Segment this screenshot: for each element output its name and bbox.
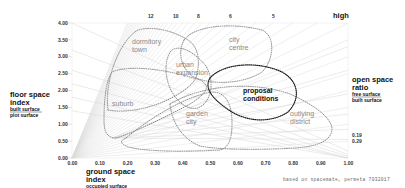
y-tick-label: 1.00 — [58, 121, 68, 127]
label-dormitory: dormitory — [132, 38, 162, 46]
top-layer-labels: 1210865 — [148, 13, 275, 19]
x-tick-label: 0.40 — [178, 160, 188, 166]
x-tick-label: 0.30 — [150, 160, 160, 166]
fsi-denominator: plot surface — [10, 112, 39, 118]
y-tick-label: 2.00 — [58, 87, 68, 93]
layer-label: 12 — [148, 13, 154, 19]
osr-tick-label: 0.29 — [352, 138, 362, 144]
y-axis-title: floor space index built surface plot sur… — [10, 90, 50, 118]
x-tick-label: 0.90 — [316, 160, 326, 166]
y-tick-label: 0.00 — [58, 155, 68, 161]
layer-label: 5 — [272, 13, 275, 19]
spacemate-chart: 0.000.501.001.502.002.503.003.504.00 0.0… — [0, 0, 405, 188]
y-tick-label: 4.00 — [58, 20, 68, 26]
x-tick-label: 0.60 — [233, 160, 243, 166]
label-conditions: conditions — [243, 95, 278, 102]
x-tick-label: 1.00 — [344, 160, 354, 166]
y-tick-label: 1.50 — [58, 104, 68, 110]
osr-title: open space ratio free surface built surf… — [352, 75, 393, 103]
label-garden-city: city — [186, 118, 197, 126]
label-district: district — [290, 118, 310, 125]
y-tick-label: 2.50 — [58, 70, 68, 76]
layer-label: 8 — [197, 13, 200, 19]
osr-right-ticks: 0.190.29 — [352, 132, 362, 144]
y-tick-label: 3.50 — [58, 37, 68, 43]
layer-label: 6 — [229, 13, 232, 19]
label-suburb: suburb — [112, 100, 134, 107]
layer-label: 10 — [173, 13, 179, 19]
x-axis-title: ground space index occupied surface — [86, 167, 135, 188]
x-axis-ticks: 0.000.100.200.300.400.500.600.700.800.90… — [68, 160, 354, 166]
gsi-numerator: occupied surface — [86, 183, 127, 188]
y-tick-label: 0.50 — [58, 138, 68, 144]
x-tick-label: 0.20 — [123, 160, 133, 166]
label-town: town — [132, 46, 147, 53]
label-centre: centre — [229, 44, 249, 51]
y-tick-label: 3.00 — [58, 53, 68, 59]
label-outlying: outlying — [290, 110, 314, 118]
high-label: high — [333, 11, 349, 20]
credit-text: based on spacemate, permeta 7032017 — [283, 177, 390, 182]
label-proposal: proposal — [243, 87, 273, 95]
label-urban: urban — [176, 61, 194, 68]
x-tick-label: 0.70 — [261, 160, 271, 166]
x-tick-label: 0.10 — [95, 160, 105, 166]
x-tick-label: 0.50 — [206, 160, 216, 166]
label-expansion: expansion — [176, 69, 208, 77]
chart-svg: 0.000.501.001.502.002.503.003.504.00 0.0… — [0, 0, 405, 188]
osr-denominator: built surface — [352, 97, 382, 103]
y-axis-ticks: 0.000.501.001.502.002.503.003.504.00 — [58, 20, 72, 161]
label-city: city — [229, 36, 240, 44]
label-garden: garden — [186, 110, 208, 118]
x-tick-label: 0.00 — [68, 160, 78, 166]
x-tick-label: 0.80 — [288, 160, 298, 166]
